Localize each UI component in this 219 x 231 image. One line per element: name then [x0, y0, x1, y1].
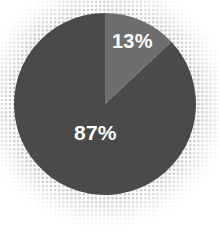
pie-slice-major-label: 87%	[74, 122, 117, 143]
pie-chart	[14, 13, 196, 195]
pie-chart-figure: 13% 87%	[0, 0, 219, 231]
pie-chart-svg	[14, 13, 196, 195]
pie-slice-minor-label: 13%	[112, 31, 153, 51]
